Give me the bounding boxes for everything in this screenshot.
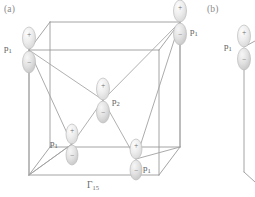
- orbital-sign-positive: +: [134, 141, 138, 150]
- orbital-label-p2-center: p2: [112, 96, 120, 106]
- orbital-sign-negative: −: [242, 55, 246, 64]
- orbital-sign-positive: +: [178, 3, 182, 12]
- orbital-sign-positive: +: [242, 28, 246, 37]
- orbital-sign-negative: −: [101, 108, 105, 117]
- orbital-sign-negative: −: [27, 58, 31, 67]
- orbital-sign-negative: −: [70, 151, 74, 160]
- panel-label-a: (a): [4, 4, 15, 14]
- symmetry-label: Γ15: [87, 180, 99, 190]
- orbital-p1-panel-b: + −: [238, 25, 251, 70]
- orbital-label-p1-top-right: p1: [190, 26, 198, 36]
- orbital-label-p1-lower-right: p1: [143, 163, 151, 173]
- orbital-label-p1-lower-left: p1: [50, 138, 58, 148]
- tetra-edge-left-diag: [29, 144, 72, 175]
- orbital-p1-lower-right: + −: [130, 139, 142, 180]
- orbital-label-p1-top-left: p1: [4, 43, 12, 53]
- tetra-edge-right-diag: [136, 147, 180, 159]
- bond-center-to-top-right: [103, 22, 180, 100]
- orbital-sign-positive: +: [27, 30, 31, 39]
- panel-b-edge-diagonal: [244, 172, 255, 182]
- cube-edge-connect-br: [159, 147, 180, 175]
- orbital-sign-positive: +: [70, 126, 74, 135]
- orbital-label-p1-panel-b: p1: [224, 41, 232, 51]
- orbital-diagram-svg: + − + − + − + − + −: [0, 0, 255, 197]
- panel-label-b: (b): [207, 4, 219, 14]
- figure-root: + − + − + − + − + −: [0, 0, 255, 197]
- orbital-sign-negative: −: [178, 30, 182, 39]
- tetra-edge-face-right: [136, 22, 180, 159]
- orbital-sign-negative: −: [134, 166, 138, 175]
- orbital-sign-positive: +: [101, 81, 105, 90]
- cube-edge-connect-bl: [29, 147, 50, 175]
